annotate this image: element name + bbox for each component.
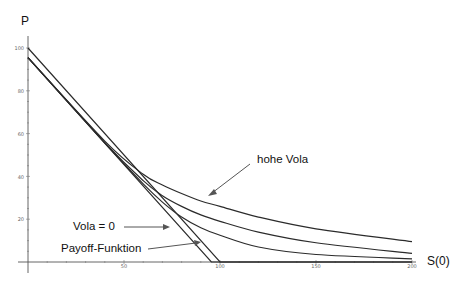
x-tick-150: 150	[311, 263, 321, 269]
arrowhead-payoff	[194, 240, 201, 246]
x-tick-100: 100	[215, 263, 225, 269]
axes	[18, 36, 416, 273]
x-tick-200: 200	[407, 263, 417, 269]
annotations: hohe Vola Vola = 0 Payoff-Funktion	[61, 153, 309, 254]
y-tick-100: 100	[14, 45, 24, 51]
annotation-payoff: Payoff-Funktion	[61, 242, 141, 254]
arrowhead-vola-zero	[163, 224, 170, 230]
arrow-hohe-vola	[212, 164, 250, 193]
y-tick-20: 20	[18, 216, 24, 222]
tick-labels: 100 80 60 40 20 50 100 150 200	[14, 45, 416, 269]
y-tick-40: 40	[18, 174, 24, 180]
x-axis-title: S(0)	[427, 254, 450, 268]
series-hohe-vola	[28, 58, 412, 242]
x-tick-50: 50	[121, 263, 127, 269]
y-tick-80: 80	[18, 88, 24, 94]
put-option-chart: 100 80 60 40 20 50 100 150 200 P S(0) ho…	[0, 0, 464, 283]
annotation-vola-zero: Vola = 0	[73, 220, 115, 232]
y-axis-title: P	[21, 14, 29, 28]
annotation-hohe-vola: hohe Vola	[257, 153, 309, 165]
y-tick-60: 60	[18, 131, 24, 137]
arrow-payoff	[148, 243, 196, 249]
